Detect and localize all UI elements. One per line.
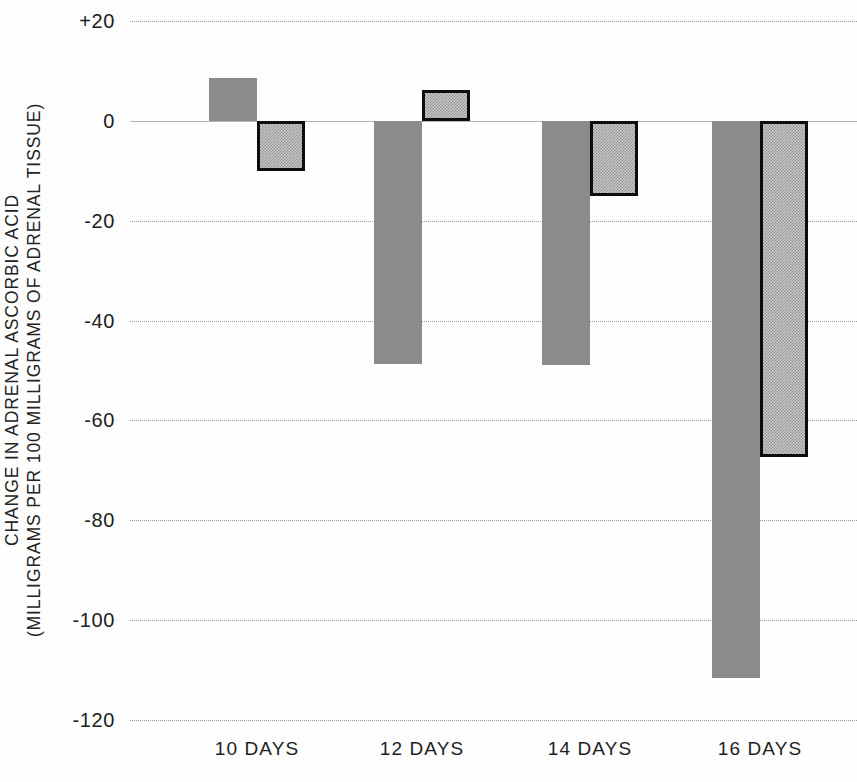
y-axis-tick-label: -80 — [0, 509, 115, 532]
bar-solid-gray-bar-10-days — [209, 78, 257, 121]
bar-solid-gray-bar-14-days — [542, 121, 590, 366]
x-axis-labels: 10 DAYS12 DAYS14 DAYS16 DAYS — [130, 738, 857, 778]
y-axis-tick-label: +20 — [0, 10, 115, 33]
bar-dotted-outlined-bar-16-days — [760, 121, 808, 457]
x-axis-label: 10 DAYS — [215, 738, 299, 760]
bar-solid-gray-bar-16-days — [712, 121, 760, 678]
x-axis-label: 16 DAYS — [718, 738, 802, 760]
y-axis-title-line-1: CHANGE IN ADRENAL ASCORBIC ACID — [2, 194, 23, 546]
y-axis-tick-label: -20 — [0, 209, 115, 232]
y-axis-tick-label: 0 — [0, 109, 115, 132]
y-axis-tick-label: -120 — [0, 709, 115, 732]
gridline — [130, 21, 857, 22]
x-axis-label: 12 DAYS — [380, 738, 464, 760]
bar-solid-gray-bar-12-days — [374, 121, 422, 364]
y-axis-tick-label: -60 — [0, 409, 115, 432]
chart-figure: CHANGE IN ADRENAL ASCORBIC ACID (MILLIGR… — [0, 0, 857, 782]
y-axis-tick-label: -100 — [0, 609, 115, 632]
y-axis-title-line-2: (MILLIGRAMS PER 100 MILLIGRAMS OF ADRENA… — [24, 103, 45, 637]
y-axis-tick-label: -40 — [0, 309, 115, 332]
x-axis-label: 14 DAYS — [548, 738, 632, 760]
plot-area: +200-20-40-60-80-100-120 — [130, 21, 857, 720]
bar-dotted-outlined-bar-12-days — [422, 90, 470, 121]
gridline — [130, 720, 857, 721]
bar-dotted-outlined-bar-10-days — [257, 121, 305, 171]
bar-dotted-outlined-bar-14-days — [590, 121, 638, 196]
